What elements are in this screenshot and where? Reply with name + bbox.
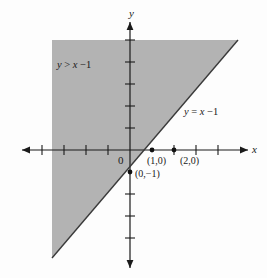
inequality-graph-figure: y x 0 y > x −1 y = x −1 (1,0) (2,0) (0,−… xyxy=(0,0,267,278)
region-label-tail: −1 xyxy=(78,59,92,70)
point-label-2-0: (2,0) xyxy=(180,156,199,166)
x-axis-label: x xyxy=(252,144,257,155)
point-label-0-neg1: (0,−1) xyxy=(135,169,160,179)
line-equation-label: y = x −1 xyxy=(184,107,218,118)
region-label-rel: > xyxy=(62,59,73,70)
y-axis-label: y xyxy=(129,8,134,19)
point-label-1-0: (1,0) xyxy=(147,156,166,166)
region-inequality-label: y > x −1 xyxy=(57,60,91,71)
point-marker-0-neg1 xyxy=(128,170,133,175)
y-axis-arrow-down xyxy=(127,260,134,268)
y-axis-arrow-up xyxy=(127,22,134,30)
point-marker-1-0 xyxy=(150,148,155,153)
x-axis-arrow-right xyxy=(240,147,248,154)
x-axis-arrow-left xyxy=(22,147,30,154)
line-label-rel: = xyxy=(189,106,200,117)
origin-label: 0 xyxy=(118,155,124,166)
graph-canvas xyxy=(0,0,267,278)
point-marker-2-0 xyxy=(172,148,177,153)
line-label-tail: −1 xyxy=(205,106,219,117)
